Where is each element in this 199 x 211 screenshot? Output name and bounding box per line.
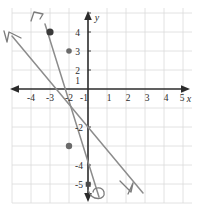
y-tick-label: -2 — [75, 123, 83, 133]
y-tick-label: -5 — [75, 180, 83, 190]
x-tick-label: 2 — [126, 93, 131, 103]
y-tick-label: 1 — [75, 76, 80, 86]
y-tick-label: 2 — [75, 66, 80, 76]
x-tick-label: 1 — [107, 93, 112, 103]
y-tick-label: 3 — [75, 47, 80, 57]
x-axis-label: x — [186, 93, 192, 104]
x-tick-label: -4 — [27, 93, 35, 103]
point-c — [66, 143, 72, 149]
y-tick-label: -4 — [75, 161, 83, 171]
x-tick-label: 4 — [164, 93, 169, 103]
point-b — [66, 48, 72, 54]
x-tick-label: 5 — [180, 93, 185, 103]
point-a — [46, 28, 53, 35]
y-axis-label: y — [94, 12, 100, 23]
y-tick-label: 4 — [75, 28, 80, 38]
point-d — [86, 182, 91, 187]
x-tick-label: -1 — [80, 93, 88, 103]
x-tick-label: -3 — [46, 93, 54, 103]
x-tick-label: -2 — [65, 93, 73, 103]
plot-area: -4 -3 -2 -1 1 2 3 4 5 4 3 2 1 -2 -4 -5 x… — [0, 0, 199, 211]
coordinate-graph: -4 -3 -2 -1 1 2 3 4 5 4 3 2 1 -2 -4 -5 x… — [0, 0, 199, 211]
x-tick-label: 3 — [145, 93, 150, 103]
